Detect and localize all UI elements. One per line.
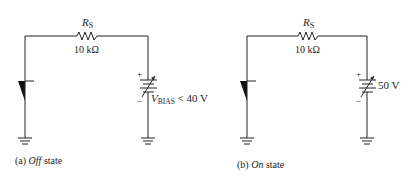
resistor-rs <box>298 32 318 40</box>
ground-icon <box>141 138 155 144</box>
resistor-label: RS <box>302 16 314 30</box>
zener-diode-icon <box>18 81 25 101</box>
battery-plus-label: + <box>356 69 361 79</box>
circuit-diagram: RS 10 kΩ + – VBIAS < 40 V (a) Off state <box>0 0 414 185</box>
panel-on-state: RS 10 kΩ + – 50 V (b) On state <box>237 16 400 171</box>
resistor-label: RS <box>81 16 93 30</box>
battery-value-label: 50 V <box>378 79 400 91</box>
battery-minus-label: – <box>355 95 361 105</box>
battery-plus-label: + <box>137 69 142 79</box>
ground-icon <box>360 138 374 144</box>
caption-on-state: (b) On state <box>237 159 285 171</box>
resistor-rs <box>77 32 97 40</box>
resistor-value: 10 kΩ <box>74 44 99 55</box>
battery-minus-label: – <box>136 95 142 105</box>
ground-icon <box>18 138 32 144</box>
ground-icon <box>240 138 254 144</box>
panel-off-state: RS 10 kΩ + – VBIAS < 40 V (a) Off state <box>15 16 208 167</box>
battery-bias-label: VBIAS < 40 V <box>151 92 208 106</box>
caption-off-state: (a) Off state <box>15 155 63 167</box>
resistor-value: 10 kΩ <box>295 44 320 55</box>
zener-diode-icon <box>240 81 247 101</box>
